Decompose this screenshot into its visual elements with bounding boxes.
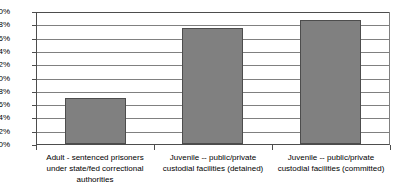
bar-chart: 20%18%16%14%12%10%8%6%4%2%0% Adult - sen… bbox=[0, 0, 405, 195]
plot-area bbox=[36, 12, 390, 145]
x-axis-category-label: Juvenile -- public/private custodial fac… bbox=[154, 152, 272, 185]
x-axis-category-label: Adult - sentenced prisoners under state/… bbox=[36, 152, 154, 185]
y-axis-tick-label: 18% bbox=[0, 21, 10, 29]
y-axis-tick-label: 20% bbox=[0, 8, 10, 16]
x-axis-labels: Adult - sentenced prisoners under state/… bbox=[36, 152, 390, 185]
x-axis-tick-mark bbox=[390, 145, 391, 150]
x-axis-tick-mark bbox=[154, 145, 155, 150]
y-axis-tick-label: 16% bbox=[0, 35, 10, 43]
bar-slot bbox=[37, 12, 154, 144]
bars-group bbox=[37, 12, 389, 144]
x-axis-category-label: Juvenile -- public/private custodial fac… bbox=[272, 152, 390, 185]
bar-slot bbox=[272, 12, 389, 144]
y-axis-tick-label: 6% bbox=[0, 101, 10, 109]
y-axis-tick-label: 12% bbox=[0, 61, 10, 69]
bar[interactable] bbox=[65, 98, 126, 144]
y-axis-tick-label: 0% bbox=[0, 141, 10, 149]
bar-slot bbox=[154, 12, 271, 144]
y-axis-tick-label: 4% bbox=[0, 114, 10, 122]
y-axis-tick-label: 10% bbox=[0, 75, 10, 83]
x-axis-tick-mark bbox=[272, 145, 273, 150]
y-axis-tick-label: 14% bbox=[0, 48, 10, 56]
bar[interactable] bbox=[300, 20, 361, 144]
y-axis-tick-label: 2% bbox=[0, 128, 10, 136]
bar[interactable] bbox=[182, 28, 243, 144]
y-axis-tick-label: 8% bbox=[0, 88, 10, 96]
x-axis-tick-mark bbox=[36, 145, 37, 150]
